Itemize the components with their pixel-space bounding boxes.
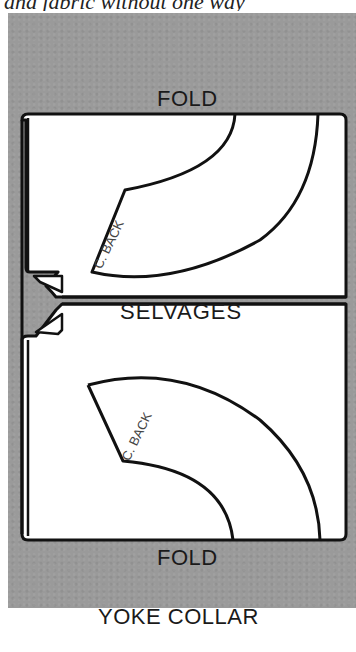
fold-label-bottom: FOLD xyxy=(157,545,218,571)
diagram-title: YOKE COLLAR xyxy=(98,604,259,630)
fold-label-top: FOLD xyxy=(157,86,218,112)
fabric-bottom-layer xyxy=(22,304,346,540)
selvages-label: SELVAGES xyxy=(120,299,242,325)
